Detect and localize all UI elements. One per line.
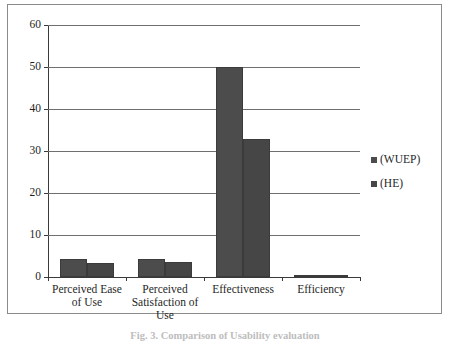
plot-area: 0102030405060 Perceived Easeof UsePercei…	[48, 25, 360, 277]
bar[interactable]	[294, 275, 321, 277]
chart-legend: (WUEP) (HE)	[371, 153, 420, 201]
x-category-label-line: Efficiency	[274, 283, 368, 296]
bar[interactable]	[60, 259, 87, 277]
x-tick-mark	[282, 277, 283, 281]
bar-group	[138, 25, 192, 277]
y-tick-label-40: 40	[30, 103, 42, 115]
figure-caption: Fig. 3. Comparison of Usability evaluati…	[0, 330, 450, 341]
bar-group	[216, 25, 270, 277]
x-tick-mark	[360, 277, 361, 281]
legend-swatch-he	[371, 181, 377, 187]
x-category-label: Efficiency	[274, 283, 368, 296]
figure-frame: 0102030405060 Perceived Easeof UsePercei…	[7, 4, 442, 314]
y-tick-label-50: 50	[30, 61, 42, 73]
bar[interactable]	[165, 262, 192, 277]
legend-label-wuep: (WUEP)	[380, 153, 420, 166]
x-tick-mark	[126, 277, 127, 281]
bar[interactable]	[87, 263, 114, 277]
x-tick-mark	[204, 277, 205, 281]
legend-label-he: (HE)	[380, 177, 403, 190]
y-tick-label-0: 0	[35, 271, 41, 283]
y-tick-label-30: 30	[30, 145, 42, 157]
bar[interactable]	[138, 259, 165, 277]
y-tick-label-60: 60	[30, 19, 42, 31]
y-tick-label-10: 10	[30, 229, 42, 241]
bar-group	[294, 25, 348, 277]
x-category-label-line: Satisfaction of	[118, 296, 212, 309]
legend-item-wuep[interactable]: (WUEP)	[371, 153, 420, 166]
y-tick-label-20: 20	[30, 187, 42, 199]
bar[interactable]	[216, 67, 243, 277]
bar-series-container	[48, 25, 360, 277]
legend-item-he[interactable]: (HE)	[371, 177, 420, 190]
bar[interactable]	[321, 275, 348, 277]
x-category-label-line: Use	[118, 309, 212, 322]
legend-swatch-wuep	[371, 157, 377, 163]
bar-group	[60, 25, 114, 277]
bar[interactable]	[243, 139, 270, 277]
x-tick-mark-origin	[48, 277, 49, 281]
